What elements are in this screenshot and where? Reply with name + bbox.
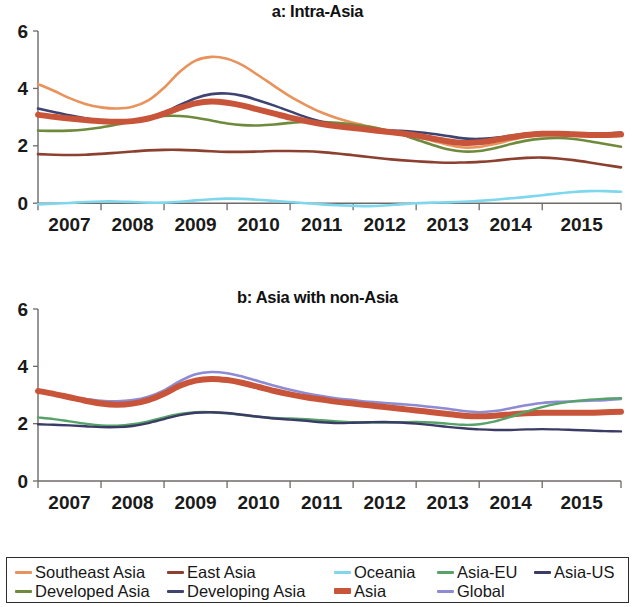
y-axis-tick-label: 4: [17, 356, 28, 377]
legend-item-label: Asia: [354, 583, 386, 600]
legend-grid: Southeast AsiaEast AsiaOceaniaAsia-EUAsi…: [7, 558, 628, 602]
chart-a-svg: 0246200720082009201020112012201320142015: [0, 0, 635, 285]
chart-b-title: b: Asia with non-Asia: [0, 288, 635, 307]
series-line-east-asia: [38, 150, 621, 168]
legend-item-asia-eu[interactable]: Asia-EU: [437, 564, 518, 581]
legend-swatch-icon: [534, 571, 551, 575]
legend-swatch-icon: [15, 590, 32, 594]
chart-panel-asia-with-non-asia: b: Asia with non-Asia 024620072008200920…: [0, 285, 635, 547]
y-axis-tick-label: 0: [17, 193, 28, 214]
legend-item-east-asia[interactable]: East Asia: [167, 564, 256, 581]
legend-swatch-icon: [437, 590, 454, 594]
x-axis-tick-label: 2008: [111, 492, 153, 513]
legend-swatch-icon: [334, 571, 351, 575]
legend-item-label: Southeast Asia: [35, 564, 145, 581]
x-axis-tick-label: 2015: [560, 214, 603, 235]
y-axis-tick-label: 2: [17, 413, 28, 434]
legend-item-label: Developed Asia: [35, 583, 150, 600]
legend-item-label: Global: [457, 583, 505, 600]
x-axis-tick-label: 2011: [301, 492, 343, 513]
chart-b-svg: 0246200720082009201020112012201320142015: [0, 285, 635, 547]
x-axis-tick-label: 2011: [301, 214, 343, 235]
legend-item-developed-asia[interactable]: Developed Asia: [15, 583, 150, 600]
x-axis-tick-label: 2015: [560, 492, 603, 513]
legend-item-global[interactable]: Global: [437, 583, 505, 600]
x-axis-tick-label: 2012: [364, 492, 406, 513]
legend-item-label: Asia-EU: [457, 564, 518, 581]
y-axis-tick-label: 0: [17, 471, 28, 492]
legend-swatch-icon: [167, 590, 184, 594]
chart-a-title: a: Intra-Asia: [0, 2, 635, 21]
x-axis-tick-label: 2014: [490, 214, 533, 235]
x-axis-tick-label: 2010: [237, 492, 279, 513]
x-axis-tick-label: 2008: [111, 214, 153, 235]
x-axis-tick-label: 2014: [490, 492, 533, 513]
legend-item-oceania[interactable]: Oceania: [334, 564, 415, 581]
legend-item-label: East Asia: [187, 564, 256, 581]
chart-legend: Southeast AsiaEast AsiaOceaniaAsia-EUAsi…: [6, 557, 629, 603]
y-axis-tick-label: 6: [17, 21, 28, 42]
legend-item-asia[interactable]: Asia: [334, 583, 386, 600]
legend-swatch-icon: [437, 571, 454, 575]
legend-swatch-icon: [15, 571, 32, 575]
x-axis-tick-label: 2009: [174, 214, 216, 235]
legend-item-developing-asia[interactable]: Developing Asia: [167, 583, 305, 600]
x-axis-tick-label: 2013: [427, 214, 469, 235]
legend-swatch-icon: [167, 571, 184, 575]
chart-panel-intra-asia: a: Intra-Asia 02462007200820092010201120…: [0, 0, 635, 285]
legend-item-southeast-asia[interactable]: Southeast Asia: [15, 564, 145, 581]
legend-item-asia-us[interactable]: Asia-US: [534, 564, 615, 581]
legend-item-label: Developing Asia: [187, 583, 305, 600]
y-axis-tick-label: 4: [17, 78, 28, 99]
x-axis-tick-label: 2010: [237, 214, 279, 235]
x-axis-tick-label: 2013: [427, 492, 469, 513]
x-axis-tick-label: 2009: [174, 492, 216, 513]
x-axis-tick-label: 2007: [48, 492, 90, 513]
x-axis-tick-label: 2007: [48, 214, 90, 235]
x-axis-tick-label: 2012: [364, 214, 406, 235]
legend-item-label: Asia-US: [554, 564, 615, 581]
legend-swatch-icon: [334, 588, 351, 594]
y-axis-tick-label: 2: [17, 135, 28, 156]
legend-item-label: Oceania: [354, 564, 415, 581]
